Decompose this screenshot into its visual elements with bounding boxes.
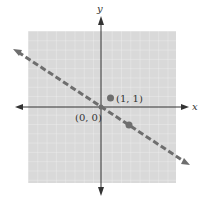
- origin-label: (0, 0): [75, 112, 102, 123]
- x-axis-right-arrow-icon: [181, 104, 189, 110]
- coordinate-plane: y x (1, 1) (0, 0): [0, 0, 216, 200]
- point-1-1-label: (1, 1): [116, 93, 143, 104]
- line-lower-arrow-icon: [181, 158, 190, 165]
- point-1-1: [107, 95, 114, 102]
- y-axis-bottom-arrow-icon: [98, 187, 104, 196]
- point-3-neg2: [126, 122, 133, 129]
- point-origin: [99, 105, 104, 110]
- y-axis-top-arrow-icon: [98, 16, 104, 25]
- y-axis-label: y: [96, 3, 103, 14]
- x-axis-label: x: [192, 101, 198, 112]
- x-axis-left-arrow-icon: [15, 104, 23, 110]
